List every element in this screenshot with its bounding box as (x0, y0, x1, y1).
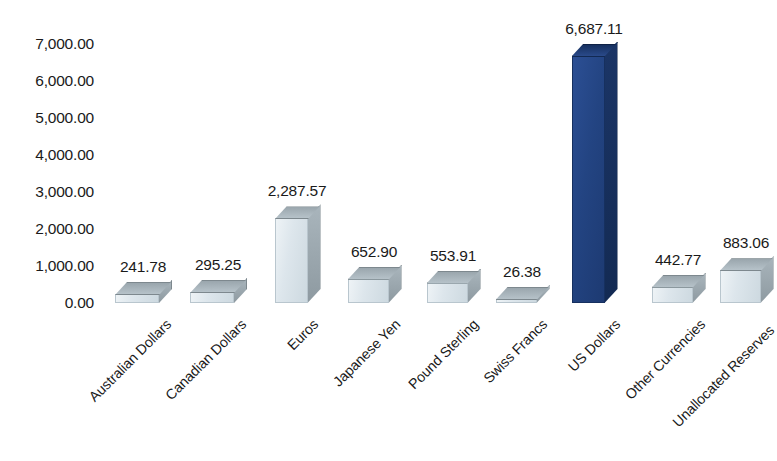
bar[interactable] (572, 56, 605, 303)
bar-value-label: 652.90 (351, 243, 397, 261)
bar[interactable] (720, 270, 761, 303)
bar-front-face (572, 56, 605, 303)
x-axis-category-label: Swiss Francs (398, 316, 551, 461)
bar-front-face (115, 294, 159, 303)
y-axis-tick-label: 3,000.00 (35, 183, 94, 201)
y-axis-tick-label: 0.00 (65, 294, 94, 312)
bar-value-label: 553.91 (430, 247, 476, 265)
bar[interactable] (427, 283, 468, 303)
bar-side-face (605, 42, 618, 303)
x-axis-category-label: Canadian Dollars (97, 316, 250, 461)
bar[interactable] (190, 292, 234, 303)
y-axis-tick-label: 5,000.00 (35, 109, 94, 127)
x-axis-category-label: Japanese Yen (251, 316, 404, 461)
y-axis-tick-label: 4,000.00 (35, 146, 94, 164)
bar[interactable] (115, 294, 159, 303)
bar-front-face (652, 287, 693, 303)
bar-value-label: 241.78 (120, 258, 166, 276)
bar-front-face (190, 292, 234, 303)
bar-front-face (275, 218, 308, 303)
y-axis-tick-label: 2,000.00 (35, 220, 94, 238)
x-axis-category-label: Other Currencies (556, 316, 709, 461)
bar-value-label: 2,287.57 (268, 182, 327, 200)
x-axis-category-label: Euros (169, 316, 322, 461)
y-axis-tick-label: 7,000.00 (35, 35, 94, 53)
bar[interactable] (652, 287, 693, 303)
bar-value-label: 295.25 (195, 256, 241, 274)
bar-front-face (720, 270, 761, 303)
bar[interactable] (348, 279, 389, 303)
plot-area: 241.78Australian Dollars295.25Canadian D… (104, 0, 772, 461)
y-axis-tick-label: 1,000.00 (35, 257, 94, 275)
x-axis-category-label: US Dollars (471, 316, 624, 461)
bar[interactable] (275, 218, 308, 303)
bar[interactable] (496, 299, 537, 303)
y-axis-tick-label: 6,000.00 (35, 72, 94, 90)
bar-value-label: 442.77 (655, 251, 701, 269)
bar-value-label: 26.38 (503, 263, 541, 281)
x-axis-category-label: Unallocated Reserves (625, 322, 777, 461)
bar-front-face (348, 279, 389, 303)
x-axis-category-label: Pound Sterling (329, 316, 482, 461)
bar-side-face (308, 204, 321, 303)
bar-value-label: 6,687.11 (565, 20, 623, 38)
bar-value-label: 883.06 (723, 234, 769, 252)
bar-front-face (427, 283, 468, 303)
